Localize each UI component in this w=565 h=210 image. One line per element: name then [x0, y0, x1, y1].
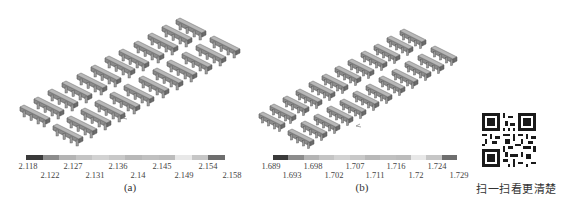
colorbar-segment: [426, 155, 441, 160]
panel-a-caption: (a): [124, 181, 136, 193]
colorbar-a-tick: 2.154: [198, 161, 217, 171]
colorbar-segment: [350, 155, 365, 160]
colorbar-b-tick: 1.711: [366, 170, 385, 180]
colorbar-segment: [142, 155, 159, 160]
colorbar-segment: [365, 155, 380, 160]
colorbar-segment: [411, 155, 426, 160]
colorbar-b-tick: 1.72: [409, 170, 424, 180]
colorbar-b-tick: 1.724: [427, 161, 446, 171]
panel-a: 2.118 2.122 2.127 2.131 2.136 2.14 2.145…: [0, 0, 250, 210]
colorbar-b-tick: 1.693: [282, 170, 301, 180]
colorbar-segment: [304, 155, 319, 160]
colorbar-segment: [92, 155, 109, 160]
colorbar-a-tick: 2.14: [131, 170, 146, 180]
colorbar-segment: [43, 155, 60, 160]
colorbar-b-tick: 1.689: [261, 161, 280, 171]
colorbar-segment: [288, 155, 303, 160]
panel-b-caption: (b): [356, 181, 369, 193]
colorbar-b-tick: 1.707: [345, 161, 364, 171]
colorbar-segment: [396, 155, 411, 160]
qr-code[interactable]: [482, 113, 536, 167]
colorbar-segment: [125, 155, 142, 160]
colorbar-a: [26, 155, 225, 160]
colorbar-a-tick: 2.158: [222, 170, 241, 180]
colorbar-a-tick: 2.145: [152, 161, 171, 171]
colorbar-b-tick: 1.716: [386, 161, 405, 171]
colorbar-segment: [208, 155, 225, 160]
colorbar-segment: [109, 155, 126, 160]
qr-caption: 扫一扫看更清楚: [476, 180, 557, 196]
colorbar-a-tick: 2.122: [40, 170, 59, 180]
colorbar-segment: [442, 155, 457, 160]
colorbar-segment: [380, 155, 395, 160]
panel-b: 1.689 1.693 1.698 1.702 1.707 1.711 1.71…: [250, 0, 480, 210]
colorbar-segment: [159, 155, 176, 160]
colorbar-segment: [59, 155, 76, 160]
pile-cap-array-model-a: [0, 0, 250, 150]
colorbar-segment: [273, 155, 288, 160]
colorbar-b: [273, 155, 457, 160]
colorbar-b-tick: 1.698: [303, 161, 322, 171]
colorbar-a-tick: 2.131: [85, 170, 104, 180]
pile-cap-array-model-b: [250, 0, 480, 150]
colorbar-b-tick: 1.702: [324, 170, 343, 180]
colorbar-segment: [76, 155, 93, 160]
colorbar-a-tick: 2.149: [174, 170, 193, 180]
colorbar-segment: [175, 155, 192, 160]
colorbar-segment: [26, 155, 43, 160]
colorbar-segment: [334, 155, 349, 160]
colorbar-segment: [319, 155, 334, 160]
colorbar-a-tick: 2.127: [63, 161, 82, 171]
colorbar-a-tick: 2.118: [19, 161, 38, 171]
colorbar-segment: [192, 155, 209, 160]
colorbar-a-tick: 2.136: [108, 161, 127, 171]
colorbar-b-tick: 1.729: [449, 170, 468, 180]
